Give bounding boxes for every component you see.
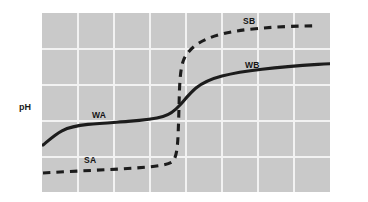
- curve-label-wa: WA: [92, 111, 106, 120]
- curve-label-sb: SB: [243, 17, 255, 26]
- y-axis-label: pH: [19, 103, 31, 112]
- plot-canvas: [0, 0, 368, 202]
- titration-curve-figure: pH WA SA SB WB: [0, 0, 368, 202]
- curve-label-sa: SA: [84, 156, 96, 165]
- curve-label-wb: WB: [245, 61, 260, 70]
